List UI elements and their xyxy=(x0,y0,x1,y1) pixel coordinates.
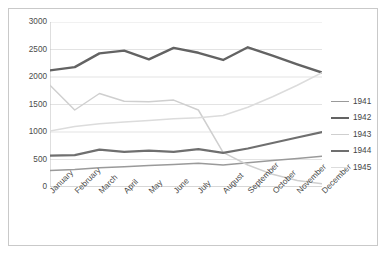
y-tick-label: 500 xyxy=(33,156,47,164)
legend-label: 1941 xyxy=(353,97,371,106)
y-axis-labels: 300025002000150010005000 xyxy=(9,9,47,209)
chart-frame: 300025002000150010005000 JanuaryFebruary… xyxy=(8,8,378,246)
x-axis-labels: JanuaryFebruaryMarchAprilMayJuneJulyAugu… xyxy=(50,189,325,247)
legend-line-swatch-icon xyxy=(331,101,349,102)
legend-line-swatch-icon xyxy=(331,134,349,135)
legend-label: 1942 xyxy=(353,113,371,122)
series-line-1944 xyxy=(50,132,322,156)
y-tick-label: 2500 xyxy=(29,46,47,54)
y-tick-label: 3000 xyxy=(29,18,47,26)
legend-line-swatch-icon xyxy=(331,117,349,119)
y-tick-label: 2000 xyxy=(29,73,47,81)
legend-item-1944[interactable]: 1944 xyxy=(331,143,383,160)
legend-line-swatch-icon xyxy=(331,167,349,168)
legend-item-1941[interactable]: 1941 xyxy=(331,93,383,110)
legend-item-1945[interactable]: 1945 xyxy=(331,159,383,176)
line-chart-svg xyxy=(50,22,322,187)
series-line-1941 xyxy=(50,156,322,170)
plot-area xyxy=(50,22,322,187)
legend-line-swatch-icon xyxy=(331,150,349,152)
legend-label: 1945 xyxy=(353,163,371,172)
legend-item-1943[interactable]: 1943 xyxy=(331,126,383,143)
legend-item-1942[interactable]: 1942 xyxy=(331,110,383,127)
y-tick-label: 0 xyxy=(42,183,47,191)
chart-legend: 19411942194319441945 xyxy=(331,93,383,176)
series-lines xyxy=(50,47,322,183)
legend-label: 1943 xyxy=(353,130,371,139)
y-tick-label: 1500 xyxy=(29,101,47,109)
y-tick-label: 1000 xyxy=(29,128,47,136)
series-line-1945 xyxy=(50,73,322,131)
series-line-1942 xyxy=(50,47,322,72)
legend-label: 1944 xyxy=(353,146,371,155)
